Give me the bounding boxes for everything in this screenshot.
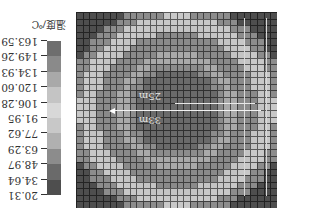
heatmap-cell bbox=[103, 97, 110, 104]
heatmap-cell bbox=[76, 51, 83, 58]
heatmap-cell bbox=[257, 77, 264, 84]
heatmap-cell bbox=[130, 19, 137, 26]
heatmap-cell bbox=[190, 64, 197, 71]
heatmap-cell bbox=[89, 169, 96, 176]
heatmap-cell bbox=[237, 149, 244, 156]
heatmap-cell bbox=[270, 25, 277, 32]
heatmap-cell bbox=[143, 25, 150, 32]
heatmap-cell bbox=[210, 143, 217, 150]
heatmap-cell bbox=[116, 195, 123, 202]
heatmap-cell bbox=[270, 97, 277, 104]
heatmap-cell bbox=[177, 12, 184, 19]
heatmap-cell bbox=[83, 136, 90, 143]
heatmap-cell bbox=[257, 90, 264, 97]
heatmap-cell bbox=[270, 84, 277, 91]
heatmap-cell bbox=[103, 117, 110, 124]
heatmap-cell bbox=[270, 136, 277, 143]
heatmap-cell bbox=[270, 123, 277, 130]
heatmap-cell bbox=[230, 201, 237, 208]
heatmap-cell bbox=[237, 84, 244, 91]
heatmap-cell bbox=[163, 32, 170, 39]
heatmap-cell bbox=[96, 97, 103, 104]
heatmap-cell bbox=[89, 117, 96, 124]
heatmap-cell bbox=[163, 162, 170, 169]
heatmap-cell bbox=[143, 136, 150, 143]
heatmap-cell bbox=[150, 25, 157, 32]
heatmap-cell bbox=[237, 12, 244, 19]
heatmap-cell bbox=[223, 195, 230, 202]
heatmap-cell bbox=[230, 175, 237, 182]
heatmap-cell bbox=[89, 201, 96, 208]
heatmap-cell bbox=[170, 162, 177, 169]
heatmap-cell bbox=[237, 195, 244, 202]
heatmap-cell bbox=[210, 156, 217, 163]
heatmap-cell bbox=[203, 195, 210, 202]
heatmap-cell bbox=[150, 130, 157, 137]
heatmap-cell bbox=[237, 123, 244, 130]
heatmap-cell bbox=[130, 77, 137, 84]
heatmap-cell bbox=[163, 77, 170, 84]
heatmap-cell bbox=[223, 71, 230, 78]
heatmap-cell bbox=[130, 136, 137, 143]
heatmap-cell bbox=[156, 156, 163, 163]
heatmap-cell bbox=[163, 58, 170, 65]
heatmap-cell bbox=[163, 143, 170, 150]
heatmap-cell bbox=[210, 188, 217, 195]
heatmap-cell bbox=[237, 117, 244, 124]
heatmap-cell bbox=[96, 169, 103, 176]
heatmap-cell bbox=[163, 12, 170, 19]
heatmap-cell bbox=[197, 32, 204, 39]
heatmap-cell bbox=[237, 19, 244, 26]
heatmap-cell bbox=[210, 25, 217, 32]
heatmap-cell bbox=[103, 188, 110, 195]
heatmap-cell bbox=[190, 19, 197, 26]
heatmap-cell bbox=[203, 156, 210, 163]
heatmap-cell bbox=[183, 90, 190, 97]
heatmap-cell bbox=[89, 97, 96, 104]
legend-tick bbox=[41, 132, 47, 133]
heatmap-cell bbox=[123, 25, 130, 32]
heatmap-cell bbox=[250, 162, 257, 169]
heatmap-cell bbox=[116, 97, 123, 104]
heatmap-cell bbox=[83, 175, 90, 182]
heatmap-cell bbox=[136, 38, 143, 45]
heatmap-cell bbox=[190, 182, 197, 189]
heatmap-cell bbox=[136, 77, 143, 84]
heatmap-cell bbox=[170, 84, 177, 91]
heatmap-cell bbox=[183, 123, 190, 130]
heatmap-cell bbox=[190, 156, 197, 163]
heatmap-cell bbox=[143, 19, 150, 26]
heatmap-cell bbox=[150, 51, 157, 58]
heatmap-cell bbox=[197, 25, 204, 32]
heatmap-cell bbox=[136, 201, 143, 208]
heatmap-cell bbox=[190, 149, 197, 156]
heatmap-cell bbox=[230, 12, 237, 19]
heatmap-cell bbox=[183, 169, 190, 176]
heatmap-cell bbox=[143, 64, 150, 71]
heatmap-cell bbox=[103, 149, 110, 156]
heatmap-cell bbox=[203, 123, 210, 130]
heatmap-cell bbox=[116, 123, 123, 130]
heatmap-cell bbox=[83, 19, 90, 26]
heatmap-cell bbox=[116, 58, 123, 65]
heatmap-cell bbox=[257, 64, 264, 71]
heatmap-cell bbox=[223, 117, 230, 124]
heatmap-cell bbox=[250, 130, 257, 137]
heatmap-cell bbox=[143, 195, 150, 202]
heatmap-cell bbox=[103, 90, 110, 97]
heatmap-cell bbox=[223, 32, 230, 39]
heatmap-cell bbox=[210, 38, 217, 45]
heatmap-cell bbox=[183, 51, 190, 58]
heatmap-cell bbox=[76, 103, 83, 110]
radius-25m-line bbox=[175, 103, 255, 104]
heatmap-cell bbox=[210, 136, 217, 143]
heatmap-cell bbox=[116, 188, 123, 195]
heatmap-cell bbox=[177, 64, 184, 71]
heatmap-cell bbox=[76, 182, 83, 189]
heatmap-cell bbox=[83, 156, 90, 163]
heatmap-cell bbox=[110, 12, 117, 19]
heatmap-cell bbox=[76, 58, 83, 65]
heatmap-cell bbox=[130, 169, 137, 176]
heatmap-cell bbox=[110, 90, 117, 97]
heatmap-cell bbox=[150, 45, 157, 52]
